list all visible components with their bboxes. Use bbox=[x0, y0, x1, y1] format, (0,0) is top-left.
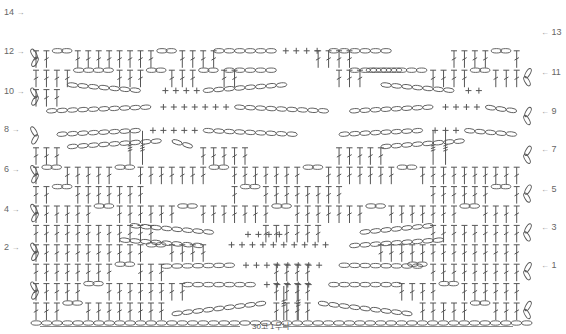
crochet-chart bbox=[0, 0, 566, 334]
row-label-right: ← 3 bbox=[541, 222, 557, 232]
row-label-right: ← 13 bbox=[541, 27, 562, 37]
row-label-right: ← 5 bbox=[541, 184, 557, 194]
arrow-right-icon: → bbox=[12, 165, 20, 174]
row-number: 1 bbox=[552, 260, 557, 270]
arrow-left-icon: ← bbox=[541, 145, 549, 154]
arrow-right-icon: → bbox=[12, 125, 20, 134]
arrow-right-icon: → bbox=[17, 47, 25, 56]
row-label-left: 10 → bbox=[4, 86, 25, 96]
row-label-left: 12 → bbox=[4, 46, 25, 56]
row-number: 2 bbox=[4, 242, 9, 252]
row-number: 14 bbox=[4, 7, 14, 17]
arrow-right-icon: → bbox=[17, 87, 25, 96]
row-label-right: ← 11 bbox=[541, 67, 561, 77]
arrow-left-icon: ← bbox=[541, 68, 549, 77]
repeat-bracket-right bbox=[283, 326, 513, 327]
row-label-left: 8 → bbox=[4, 124, 20, 134]
repeat-bracket-left bbox=[40, 326, 240, 327]
row-label-left: 2 → bbox=[4, 242, 20, 252]
row-label-right: ← 7 bbox=[541, 144, 557, 154]
arrow-right-icon: → bbox=[12, 205, 20, 214]
arrow-right-icon: → bbox=[12, 243, 20, 252]
row-number: 3 bbox=[552, 222, 557, 232]
row-number: 6 bbox=[4, 164, 9, 174]
row-label-left: 6 → bbox=[4, 164, 20, 174]
arrow-left-icon: ← bbox=[541, 185, 549, 194]
row-number: 8 bbox=[4, 124, 9, 134]
row-label-left: 14 → bbox=[4, 7, 25, 17]
row-number: 9 bbox=[552, 106, 557, 116]
row-label-left: 4 → bbox=[4, 204, 20, 214]
row-number: 7 bbox=[552, 144, 557, 154]
row-number: 5 bbox=[552, 184, 557, 194]
arrow-left-icon: ← bbox=[541, 107, 549, 116]
row-label-right: ← 1 bbox=[541, 260, 557, 270]
arrow-left-icon: ← bbox=[541, 28, 549, 37]
arrow-left-icon: ← bbox=[541, 223, 549, 232]
row-number: 4 bbox=[4, 204, 9, 214]
arrow-left-icon: ← bbox=[541, 261, 549, 270]
row-number: 10 bbox=[4, 86, 14, 96]
row-number: 11 bbox=[552, 67, 561, 77]
row-label-right: ← 9 bbox=[541, 106, 557, 116]
arrow-right-icon: → bbox=[17, 8, 25, 17]
row-number: 12 bbox=[4, 46, 14, 56]
row-number: 13 bbox=[552, 27, 562, 37]
